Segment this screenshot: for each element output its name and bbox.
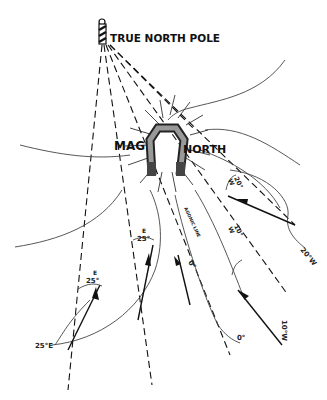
true-north-meridians [68, 45, 295, 390]
isogonic-lines [15, 60, 305, 345]
isogonic-25e-label: 25°E [35, 342, 53, 350]
angle-label-w-20-val: 20° [232, 175, 244, 190]
angle-label-e-2-val: 25° [137, 235, 150, 243]
striped-pole-icon [99, 19, 106, 44]
mag-label: MAG [114, 139, 145, 153]
north-label: NORTH [183, 143, 226, 156]
isogonic-10w-label: 10°W [280, 320, 288, 341]
magnetic-variation-diagram: TRUE NORTH POLE MAG NORTH 25°E 0° 10°W 2… [0, 0, 327, 400]
angle-label-e-1-dir: E [93, 269, 97, 276]
angle-label-e-1-val: 25° [86, 277, 99, 285]
compass-needles [68, 196, 295, 350]
horseshoe-magnet-icon [147, 128, 185, 176]
title-label: TRUE NORTH POLE [110, 32, 220, 44]
angle-label-w-10-val: 10° [232, 223, 244, 238]
angle-label-e-2-dir: E [142, 227, 146, 234]
isogonic-20w-label: 20°W [298, 246, 318, 267]
agonic-line-label: AGONIC LINE [183, 206, 201, 238]
isogonic-0-label: 0° [237, 334, 245, 342]
